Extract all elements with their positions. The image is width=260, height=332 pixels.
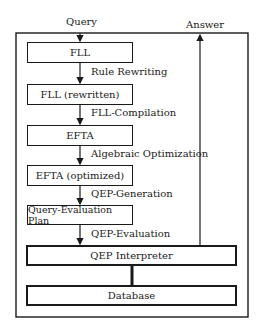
transition-qep-evaluation: QEP-Evaluation [91,228,170,240]
answer-label: Answer [186,19,224,31]
transition-rule-rewriting: Rule Rewriting [91,66,167,78]
stage-efta: EFTA [27,125,133,146]
stage-query-evaluation-plan: Query-Evaluation Plan [27,205,133,225]
qep-interpreter-box: QEP Interpreter [26,245,237,266]
query-label: Query [66,16,97,28]
stage-fll: FLL [27,42,133,63]
transition-fll-compilation: FLL-Compilation [91,107,176,119]
database-box: Database [26,285,237,306]
transition-algebraic-optimization: Algebraic Optimization [91,148,208,160]
stage-efta-optimized: EFTA (optimized) [27,165,133,186]
transition-qep-generation: QEP-Generation [91,188,173,200]
stage-fll-rewritten: FLL (rewritten) [27,84,133,105]
